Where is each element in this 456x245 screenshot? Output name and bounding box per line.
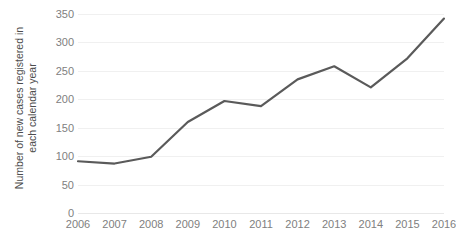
x-tick-label-2014: 2014 xyxy=(359,218,383,230)
x-axis-tick-labels: 2006200720082009201020112012201320142015… xyxy=(78,218,444,240)
x-tick-label-2013: 2013 xyxy=(322,218,346,230)
x-tick-label-2016: 2016 xyxy=(432,218,456,230)
y-tick-label-300: 300 xyxy=(56,36,74,48)
y-tick-label-100: 100 xyxy=(56,150,74,162)
y-tick-label-350: 350 xyxy=(56,8,74,20)
y-tick-label-50: 50 xyxy=(62,179,74,191)
series-line xyxy=(78,14,444,213)
series-polyline xyxy=(78,19,444,164)
y-tick-label-150: 150 xyxy=(56,122,74,134)
x-tick-label-2009: 2009 xyxy=(176,218,200,230)
x-tick-label-2011: 2011 xyxy=(249,218,273,230)
y-tick-label-250: 250 xyxy=(56,65,74,77)
y-tick-label-200: 200 xyxy=(56,93,74,105)
x-tick-label-2006: 2006 xyxy=(66,218,90,230)
gridline-0 xyxy=(78,213,444,214)
x-tick-label-2007: 2007 xyxy=(102,218,126,230)
y-axis-title-line-1: Number of new cases registered in xyxy=(13,26,26,188)
y-axis-title: Number of new cases registered in each c… xyxy=(0,0,52,215)
y-axis-title-line-2: each calendar year xyxy=(26,26,39,188)
x-tick-label-2010: 2010 xyxy=(212,218,236,230)
x-tick-label-2012: 2012 xyxy=(285,218,309,230)
plot-area xyxy=(78,14,444,213)
x-tick-label-2008: 2008 xyxy=(139,218,163,230)
y-axis-tick-labels: 050100150200250300350 xyxy=(46,0,78,220)
x-tick-label-2015: 2015 xyxy=(395,218,419,230)
